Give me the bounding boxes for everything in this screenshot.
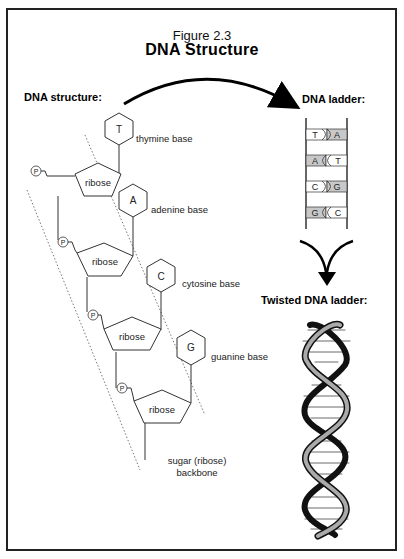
svg-text:G: G [187, 342, 195, 353]
svg-text:ribose: ribose [85, 177, 111, 188]
adenine-label: adenine base [151, 204, 208, 215]
double-helix [303, 324, 350, 536]
backbone-label-line2: backbone [176, 467, 217, 478]
nucleotide-unit-2: A ribose P [58, 184, 147, 276]
svg-text:G: G [333, 182, 340, 192]
svg-text:C: C [335, 208, 342, 218]
svg-text:C: C [157, 271, 164, 282]
svg-text:A: A [130, 195, 137, 206]
down-arrow-icon [300, 241, 353, 286]
svg-text:ribose: ribose [92, 256, 118, 267]
dna-ladder: T A A T C G G C [306, 118, 347, 229]
svg-text:C: C [312, 182, 319, 192]
backbone-label-line1: sugar (ribose) [168, 455, 227, 466]
svg-text:T: T [116, 124, 122, 135]
svg-text:P: P [120, 385, 125, 392]
svg-text:T: T [312, 130, 318, 140]
guanine-label: guanine base [211, 351, 268, 362]
svg-text:ribose: ribose [149, 404, 175, 415]
thymine-label: thymine base [136, 133, 193, 144]
svg-text:A: A [312, 156, 318, 166]
svg-text:P: P [91, 312, 96, 319]
dna-diagram: T ribose P A ribose P C ribose P G [0, 0, 404, 559]
svg-text:P: P [61, 239, 66, 246]
curved-arrow-icon [124, 79, 290, 104]
svg-text:P: P [34, 168, 39, 175]
svg-text:A: A [334, 130, 340, 140]
svg-text:ribose: ribose [119, 331, 145, 342]
svg-text:T: T [335, 156, 341, 166]
nucleotide-unit-1: T ribose P [31, 113, 133, 196]
svg-text:G: G [311, 208, 318, 218]
cytosine-label: cytosine base [182, 278, 240, 289]
